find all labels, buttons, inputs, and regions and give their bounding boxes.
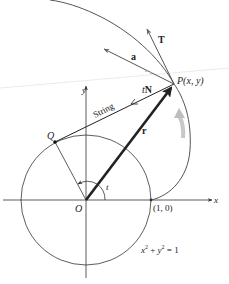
label-vector-T: T	[158, 34, 165, 45]
label-point-P: P(x, y)	[176, 75, 204, 87]
involute-diagram: P(x, y) Q O (1, 0) x y t String T a tN r…	[0, 0, 229, 284]
circle-equation: x2 + y2 = 1	[140, 244, 179, 255]
label-y-axis: y	[81, 85, 86, 95]
label-string: String	[91, 101, 116, 120]
direction-arrow	[179, 115, 183, 138]
vector-r	[86, 88, 171, 200]
label-angle-t: t	[106, 182, 109, 192]
label-x-axis: x	[213, 195, 218, 205]
label-vector-tN: tN	[142, 84, 153, 95]
angle-arc-t-arrow	[78, 181, 97, 184]
label-point-1-0: (1, 0)	[153, 203, 173, 213]
label-vector-r: r	[142, 125, 147, 136]
radius-OQ	[55, 142, 86, 200]
involute-curve	[50, 0, 190, 200]
direction-arrow-head	[174, 108, 185, 118]
label-point-Q: Q	[47, 130, 55, 141]
vector-a	[104, 49, 174, 84]
label-origin: O	[75, 203, 82, 214]
angle-arc-t	[97, 184, 105, 200]
string-line	[55, 84, 174, 142]
label-vector-a: a	[131, 51, 136, 62]
